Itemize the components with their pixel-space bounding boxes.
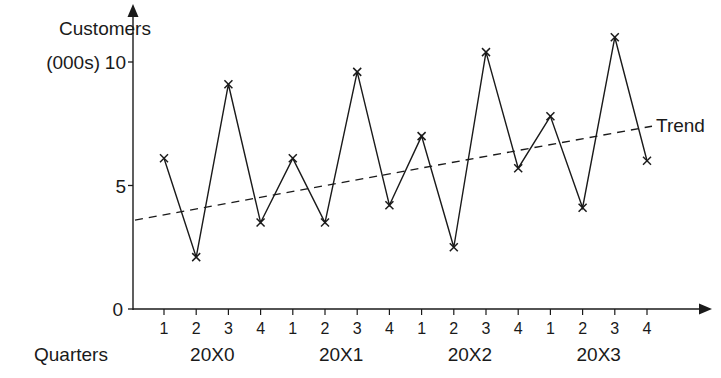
x-marker-icon — [643, 157, 651, 165]
trend-label: Trend — [656, 115, 705, 136]
y-axis-arrow-icon — [128, 4, 139, 17]
year-label: 20X1 — [319, 344, 363, 365]
x-tick-label: 2 — [449, 320, 458, 337]
x-marker-icon — [160, 154, 168, 162]
year-label: 20X3 — [577, 344, 621, 365]
x-tick-label: 1 — [288, 320, 297, 337]
line-chart: 5100 1234123412341234 Customers (000s) Q… — [0, 0, 721, 378]
x-tick-label: 4 — [256, 320, 265, 337]
x-tick-label: 4 — [385, 320, 394, 337]
x-tick-label: 2 — [192, 320, 201, 337]
x-tick-label: 3 — [224, 320, 233, 337]
x-marker-icon — [546, 112, 554, 120]
x-marker-icon — [289, 154, 297, 162]
y-tick-label: 5 — [115, 176, 126, 197]
x-tick-label: 1 — [160, 320, 169, 337]
x-tick-label: 4 — [643, 320, 652, 337]
y-axis-label-line2: (000s) — [46, 52, 100, 73]
x-axis-label: Quarters — [34, 344, 108, 365]
year-labels: 20X020X120X220X3 — [190, 344, 621, 365]
x-tick-label: 1 — [417, 320, 426, 337]
x-tick-label: 3 — [610, 320, 619, 337]
x-tick-label: 2 — [321, 320, 330, 337]
x-tick-label: 3 — [353, 320, 362, 337]
x-tick-label: 2 — [578, 320, 587, 337]
x-tick-label: 4 — [514, 320, 523, 337]
year-label: 20X2 — [448, 344, 492, 365]
x-tick-label: 1 — [546, 320, 555, 337]
customers-series — [160, 33, 651, 261]
x-axis-arrow-icon — [699, 304, 712, 315]
y-axis-label-line1: Customers — [59, 18, 151, 39]
year-label: 20X0 — [190, 344, 234, 365]
x-ticks: 1234123412341234 — [160, 309, 652, 337]
customers-line — [164, 37, 647, 257]
x-marker-icon — [418, 132, 426, 140]
x-marker-icon — [514, 164, 522, 172]
y-tick-label: 0 — [112, 299, 123, 320]
y-ticks: 5100 — [105, 52, 133, 320]
x-tick-label: 3 — [482, 320, 491, 337]
y-tick-label: 10 — [105, 52, 126, 73]
